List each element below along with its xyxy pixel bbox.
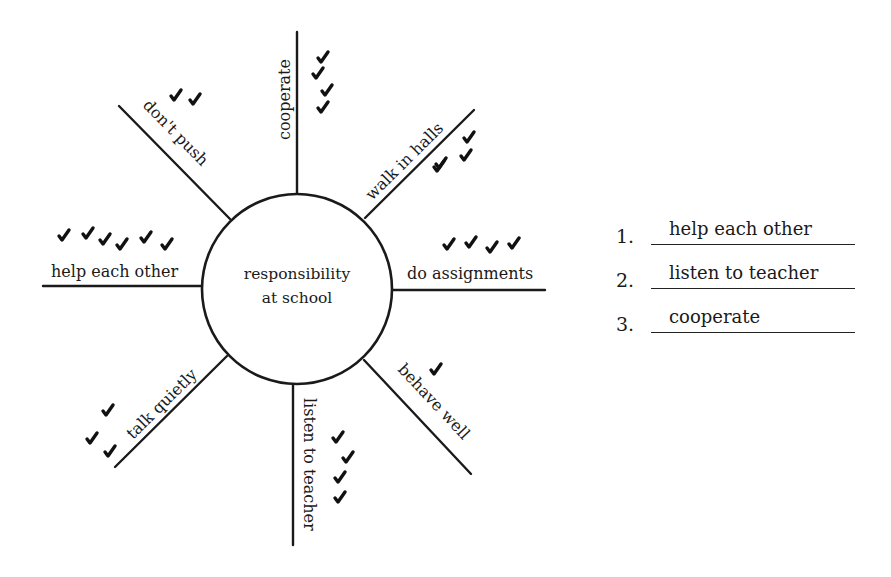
rank-number: 1. — [616, 225, 634, 247]
rank-answer: help each other — [669, 218, 812, 239]
check-icon — [100, 234, 110, 244]
check-icon — [313, 68, 323, 78]
ranking-list: 1. help each other 2. listen to teacher … — [612, 213, 862, 345]
ranking-row: 2. listen to teacher — [612, 257, 862, 301]
check-icon — [333, 432, 343, 442]
check-icon — [141, 232, 151, 242]
check-marks-behave-well — [431, 364, 441, 374]
spoke-label-help-each-other: help each other — [51, 262, 178, 281]
check-icon — [83, 228, 93, 238]
spoke-label-talk-quietly: talk quietly — [122, 365, 200, 443]
check-icon — [343, 452, 353, 462]
check-icon — [487, 242, 497, 252]
check-icon — [509, 238, 519, 248]
check-icon — [117, 239, 127, 249]
spoke-label-walk-in-halls: walk in halls — [361, 119, 447, 204]
check-icon — [335, 492, 345, 502]
check-icon — [464, 132, 474, 142]
spoke-label-listen-to-teacher: listen to teacher — [300, 398, 319, 531]
check-icon — [318, 52, 328, 62]
rank-number: 3. — [616, 313, 634, 335]
check-icon — [466, 237, 476, 247]
check-icon — [87, 433, 97, 443]
check-icon — [461, 150, 471, 160]
rank-answer: cooperate — [669, 306, 760, 327]
check-icon — [162, 239, 172, 249]
check-icon — [103, 405, 113, 415]
hub-label-line2: at school — [262, 289, 333, 307]
check-icon — [59, 230, 69, 240]
rank-answer: listen to teacher — [669, 262, 818, 283]
check-marks-do-assignments — [444, 237, 519, 252]
check-marks-help-each-other — [59, 228, 172, 249]
check-icon — [322, 85, 332, 95]
answer-underline — [651, 288, 855, 289]
check-icon — [431, 364, 441, 374]
ranking-row: 3. cooperate — [612, 301, 862, 345]
check-marks-listen-to-teacher — [333, 432, 353, 502]
rank-number: 2. — [616, 269, 634, 291]
hub-label-line1: responsibility — [244, 265, 351, 283]
check-icon — [444, 239, 454, 249]
spoke-label-cooperate: cooperate — [275, 59, 294, 140]
spoke-line-walk-in-halls — [365, 110, 474, 218]
spoke-line-talk-quietly — [115, 356, 227, 467]
ranking-row: 1. help each other — [612, 213, 862, 257]
answer-underline — [651, 244, 855, 245]
check-icon — [318, 102, 328, 112]
check-icon — [335, 472, 345, 482]
spoke-label-do-assignments: do assignments — [407, 264, 533, 283]
spoke-label-dont-push: don't push — [139, 95, 212, 169]
check-icon — [171, 90, 181, 100]
check-marks-cooperate — [313, 52, 332, 112]
answer-underline — [651, 332, 855, 333]
check-icon — [190, 94, 200, 104]
check-icon — [105, 446, 115, 456]
check-marks-dont-push — [171, 90, 200, 104]
check-icon — [436, 158, 446, 168]
check-marks-talk-quietly — [87, 405, 115, 456]
